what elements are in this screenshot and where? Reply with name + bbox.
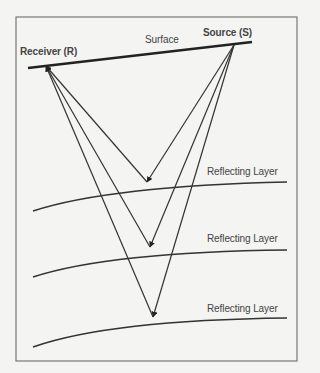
- surface-label: Surface: [145, 34, 179, 45]
- ray-down-2: [150, 45, 234, 247]
- ray-up-1: [46, 66, 147, 182]
- reflecting-layer-2: [33, 250, 287, 277]
- reflecting-layer-3-label: Reflecting Layer: [207, 303, 278, 314]
- ray-down-3: [153, 45, 234, 317]
- source-label: Source (S): [203, 27, 252, 38]
- ray-up-2: [46, 66, 150, 247]
- receiver-label: Receiver (R): [20, 46, 77, 57]
- reflecting-layer-1-label: Reflecting Layer: [207, 166, 278, 177]
- reflecting-layer-3: [33, 318, 287, 347]
- reflecting-layer-1: [33, 182, 287, 211]
- reflecting-layer-2-label: Reflecting Layer: [207, 233, 278, 244]
- ray-down-1: [147, 45, 234, 182]
